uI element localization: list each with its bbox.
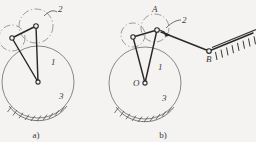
panel-a: 2 1 3 a) <box>0 4 74 140</box>
joint-A-b <box>155 28 160 33</box>
link-1-a <box>36 26 38 82</box>
leader-line-2-a <box>44 11 57 16</box>
link-1-b <box>145 30 157 83</box>
panel-b: 2 A B O 1 3 b) <box>109 4 256 140</box>
label-point-B: B <box>206 54 212 64</box>
link-upper-left-a <box>12 26 36 38</box>
ground-hatching-b <box>115 107 175 122</box>
joint-center-O-b <box>143 81 147 85</box>
mechanism-diagram: 2 1 3 a) <box>0 0 256 142</box>
caption-a: a) <box>33 130 40 140</box>
caption-b: b) <box>159 130 167 140</box>
label-cam-3-b: 3 <box>161 93 167 103</box>
label-cam-3-a: 3 <box>58 91 64 101</box>
label-roller-2-a: 2 <box>58 4 63 14</box>
ground-hatching-a <box>8 106 68 121</box>
link-left-O-b <box>133 37 145 83</box>
link-left-center-a <box>12 38 38 82</box>
label-link-1-a: 1 <box>51 57 56 67</box>
figure-canvas: 2 1 3 a) <box>0 0 256 142</box>
joint-upper-a <box>34 24 39 29</box>
label-point-A: A <box>151 4 158 14</box>
joint-B-b <box>207 49 212 54</box>
joint-left-a <box>10 36 14 40</box>
rocker-link-B-ground <box>209 33 253 51</box>
label-center-O: O <box>133 78 140 88</box>
label-roller-2-b: 2 <box>182 15 187 25</box>
joint-center-a <box>36 80 40 84</box>
joint-left-b <box>131 35 135 39</box>
label-link-1-b: 1 <box>158 62 163 72</box>
